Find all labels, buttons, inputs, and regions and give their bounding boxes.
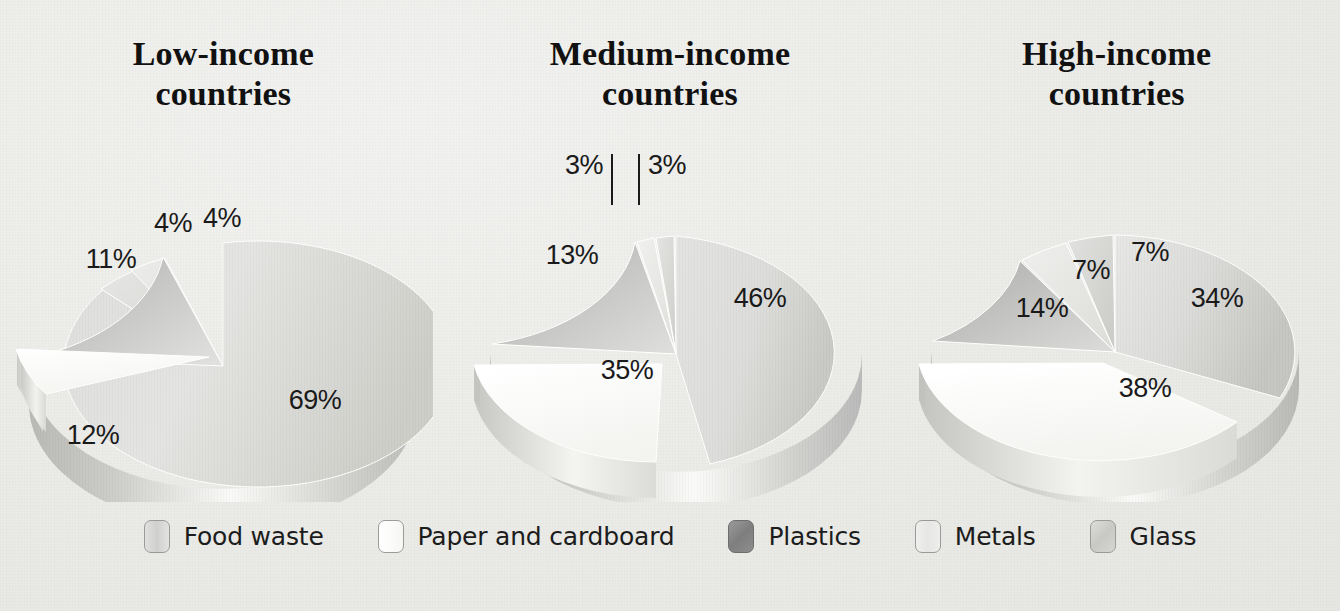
chart-title-line1: High-income bbox=[1022, 35, 1211, 72]
pie-svg-medium-income: 46% 35% 13% 3% 3% bbox=[460, 132, 880, 502]
chart-title-medium-income: Medium-income countries bbox=[447, 34, 894, 114]
pie-chart-low-income: 69% 12% 11% 4% 4% bbox=[0, 132, 447, 502]
chart-titles-row: Low-income countries Medium-income count… bbox=[0, 34, 1340, 114]
legend-label-glass: Glass bbox=[1130, 522, 1197, 551]
legend-item-glass[interactable]: Glass bbox=[1090, 520, 1197, 553]
chart-title-line2: countries bbox=[893, 74, 1340, 114]
pie-label-paper-and-cardboard: 12% bbox=[67, 420, 120, 450]
legend-label-paper-and-cardboard: Paper and cardboard bbox=[418, 522, 675, 551]
chart-title-line2: countries bbox=[447, 74, 894, 114]
chart-title-line1: Medium-income bbox=[550, 35, 791, 72]
pie-label-paper-and-cardboard: 38% bbox=[1118, 373, 1171, 403]
swatch-glass-icon bbox=[1090, 520, 1116, 553]
pie-label-plastics: 14% bbox=[1015, 293, 1068, 323]
pie-label-metals: 7% bbox=[1072, 255, 1111, 285]
chart-title-low-income: Low-income countries bbox=[0, 34, 447, 114]
pie-label-glass: 3% bbox=[648, 150, 687, 180]
legend-item-food-waste[interactable]: Food waste bbox=[144, 520, 324, 553]
legend-item-metals[interactable]: Metals bbox=[915, 520, 1036, 553]
pie-svg-high-income: 34% 38% 14% 7% 7% bbox=[907, 132, 1327, 502]
legend-item-paper-and-cardboard[interactable]: Paper and cardboard bbox=[378, 520, 675, 553]
pie-label-food-waste: 46% bbox=[734, 283, 787, 313]
pie-chart-medium-income: 46% 35% 13% 3% 3% bbox=[447, 132, 894, 502]
pie-label-food-waste: 34% bbox=[1190, 283, 1243, 313]
pie-label-metals: 4% bbox=[154, 208, 193, 238]
swatch-plastics-icon bbox=[728, 520, 754, 553]
pie-label-glass: 4% bbox=[203, 203, 242, 233]
legend-item-plastics[interactable]: Plastics bbox=[728, 520, 860, 553]
swatch-food-waste-icon bbox=[144, 520, 170, 553]
chart-title-line1: Low-income bbox=[133, 35, 314, 72]
pie-charts-row: 69% 12% 11% 4% 4% bbox=[0, 132, 1340, 502]
pie-label-plastics: 13% bbox=[546, 240, 599, 270]
chart-title-high-income: High-income countries bbox=[893, 34, 1340, 114]
legend-label-metals: Metals bbox=[955, 522, 1036, 551]
pie-chart-high-income: 34% 38% 14% 7% 7% bbox=[893, 132, 1340, 502]
chart-legend: Food waste Paper and cardboard Plastics … bbox=[0, 505, 1340, 567]
chart-title-line2: countries bbox=[0, 74, 447, 114]
chart-page: Low-income countries Medium-income count… bbox=[0, 0, 1340, 611]
pie-slice-food-waste bbox=[676, 236, 834, 464]
legend-label-plastics: Plastics bbox=[768, 522, 860, 551]
pie-label-glass: 7% bbox=[1131, 237, 1170, 267]
swatch-paper-and-cardboard-icon bbox=[378, 520, 404, 553]
swatch-metals-icon bbox=[915, 520, 941, 553]
pie-label-paper-and-cardboard: 35% bbox=[601, 355, 654, 385]
pie-svg-low-income: 69% 12% 11% 4% 4% bbox=[13, 132, 433, 502]
pie-label-metals: 3% bbox=[565, 150, 604, 180]
pie-label-plastics: 11% bbox=[86, 244, 137, 274]
pie-label-food-waste: 69% bbox=[289, 385, 342, 415]
legend-label-food-waste: Food waste bbox=[184, 522, 324, 551]
